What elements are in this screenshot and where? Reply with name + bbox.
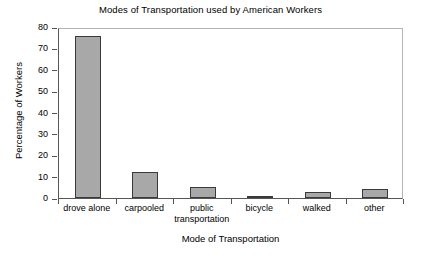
bar	[305, 192, 331, 198]
x-category-label-line: drove alone	[58, 203, 116, 214]
y-tick-mark	[52, 28, 57, 29]
y-tick-label: 40	[0, 108, 48, 119]
y-tick-mark	[52, 49, 57, 50]
bar	[132, 172, 158, 198]
x-category-label-line: bicycle	[231, 203, 289, 214]
y-tick-mark	[52, 134, 57, 135]
bars-layer	[59, 29, 402, 198]
y-tick-label: 0	[0, 193, 48, 204]
y-tick-label: 50	[0, 86, 48, 97]
bar	[190, 187, 216, 198]
x-tick-mark	[403, 199, 404, 204]
x-category-label-line: transportation	[173, 214, 231, 225]
x-category-label: other	[346, 203, 404, 214]
x-category-label: drove alone	[58, 203, 116, 214]
y-tick-label: 10	[0, 172, 48, 183]
y-tick-label: 60	[0, 65, 48, 76]
x-category-label-line: carpooled	[116, 203, 174, 214]
x-category-label: carpooled	[116, 203, 174, 214]
x-category-label-line: other	[346, 203, 404, 214]
y-tick-mark	[52, 156, 57, 157]
bar	[75, 36, 101, 198]
y-tick-mark	[52, 70, 57, 71]
x-category-label: walked	[288, 203, 346, 214]
bar	[247, 196, 273, 199]
chart-title: Modes of Transportation used by American…	[0, 4, 421, 16]
bar-chart-figure: Modes of Transportation used by American…	[0, 0, 421, 258]
x-category-label-line: public	[173, 203, 231, 214]
bar	[362, 189, 388, 198]
y-tick-label: 80	[0, 22, 48, 33]
y-tick-mark	[52, 177, 57, 178]
y-tick-mark	[52, 113, 57, 114]
y-tick-label: 30	[0, 129, 48, 140]
y-tick-label: 70	[0, 43, 48, 54]
x-category-label: publictransportation	[173, 203, 231, 225]
y-tick-mark	[52, 199, 57, 200]
y-tick-mark	[52, 92, 57, 93]
x-category-label-line: walked	[288, 203, 346, 214]
x-axis-title: Mode of Transportation	[58, 233, 403, 245]
y-tick-label: 20	[0, 150, 48, 161]
x-category-label: bicycle	[231, 203, 289, 214]
plot-area	[58, 28, 403, 199]
